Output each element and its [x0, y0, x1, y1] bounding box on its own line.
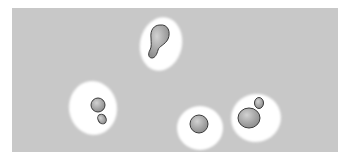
cell-body [190, 115, 208, 133]
cell-body [91, 98, 105, 112]
bud [255, 98, 264, 109]
cell-left [65, 78, 120, 138]
cell-right [226, 88, 287, 147]
cell-top [135, 13, 187, 75]
cell-body [238, 108, 260, 128]
cell-middle [177, 106, 223, 150]
yeast-cells-illustration [0, 0, 352, 162]
